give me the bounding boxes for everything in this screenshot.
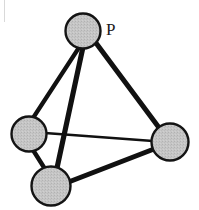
bond-left-to-bottom [33,150,45,169]
right-vertex-atom [152,124,189,161]
artifact-layer [4,0,5,22]
scan-edge-artifact [4,0,5,22]
atom-label-p: P [106,20,115,39]
bottom-vertex-atom [32,167,71,206]
top-vertex-atom [66,14,101,49]
label-layer: P [106,20,115,39]
left-vertex-atom [12,117,47,152]
bond-bottom-to-right [66,149,154,183]
bond-layer [33,43,160,183]
molecule-figure: P [0,0,199,210]
molecule-canvas: P [0,0,199,210]
bond-top-to-right [96,43,160,129]
